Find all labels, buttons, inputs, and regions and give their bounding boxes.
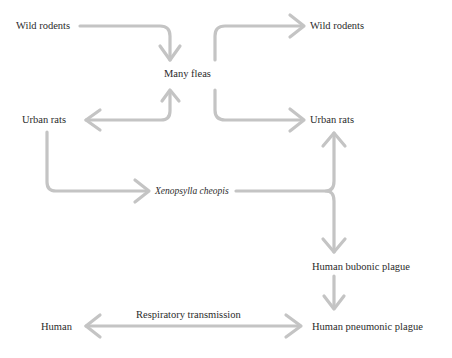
arrow-xenopsylla-branch	[236, 133, 345, 252]
node-urban-rats-right: Urban rats	[310, 115, 354, 126]
arrow-fleas-to-wild-rodents-right	[215, 15, 304, 60]
node-many-fleas: Many fleas	[164, 69, 211, 80]
node-human-pneumonic-plague: Human pneumonic plague	[312, 322, 423, 333]
arrow-urban-rats-to-xenopsylla	[47, 132, 149, 202]
node-wild-rodents-right: Wild rodents	[310, 21, 364, 32]
node-human-bubonic-plague: Human bubonic plague	[312, 262, 410, 273]
arrow-bubonic-to-pneumonic	[324, 276, 344, 309]
plague-transmission-diagram: Wild rodents Many fleas Wild rodents Urb…	[0, 0, 452, 358]
arrow-layer	[0, 0, 452, 358]
node-human: Human	[41, 322, 72, 333]
node-urban-rats-left: Urban rats	[22, 115, 66, 126]
node-wild-rodents-left: Wild rodents	[16, 21, 70, 32]
node-xenopsylla-cheopis: Xenopsylla cheopis	[155, 187, 229, 197]
edge-label-respiratory-transmission: Respiratory transmission	[136, 310, 241, 321]
arrow-fleas-urban-rats-left	[86, 90, 179, 130]
arrow-wild-rodents-to-fleas	[80, 26, 180, 60]
arrow-fleas-to-urban-rats-right	[215, 90, 304, 131]
